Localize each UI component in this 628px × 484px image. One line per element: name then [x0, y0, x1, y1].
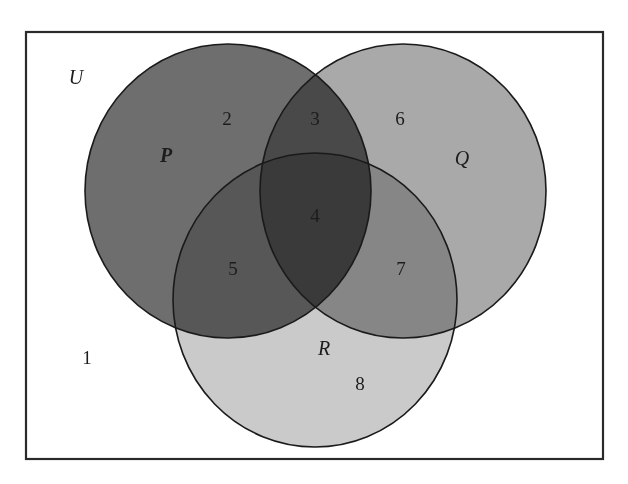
- region-8-label: 8: [355, 374, 365, 393]
- set-r-label: R: [318, 338, 330, 358]
- set-p-label: P: [160, 145, 172, 165]
- venn-diagram: [0, 0, 628, 484]
- region-1-label: 1: [82, 348, 92, 367]
- region-5-label: 5: [228, 259, 238, 278]
- region-6-label: 6: [395, 109, 405, 128]
- set-q-label: Q: [455, 148, 469, 168]
- region-2-label: 2: [222, 109, 232, 128]
- region-4-label: 4: [310, 206, 320, 225]
- region-7-label: 7: [396, 259, 406, 278]
- universe-label: U: [69, 67, 83, 87]
- set-r-fill: [173, 153, 457, 447]
- region-3-label: 3: [310, 109, 320, 128]
